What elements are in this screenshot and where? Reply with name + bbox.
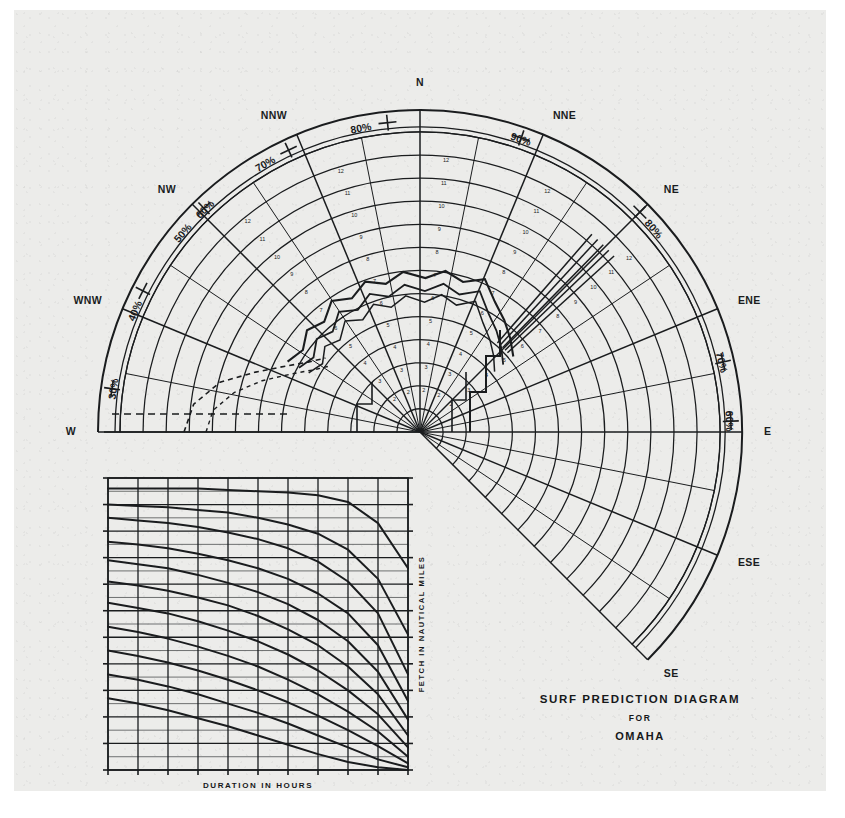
percent-label-p60e: 60% [723,410,736,432]
radial-tick-value: 2 [422,387,425,393]
radial-tick-value: 9 [574,299,577,305]
svg-text:70%: 70% [253,153,278,174]
ne-hatch-line [500,239,598,345]
radial-tick-value: 11 [608,269,614,275]
svg-text:60%: 60% [723,410,736,432]
radial-tick-value: 2 [407,389,410,395]
radial-line [192,204,420,432]
radial-tick-value: 8 [305,289,308,295]
radial-tick-value: 7 [538,328,541,334]
radial-tick-value: 12 [245,218,251,224]
radial-tick-value: 3 [400,367,403,373]
direction-label-wnw: WNW [73,294,102,306]
radial-tick-value: 6 [521,343,524,349]
direction-label-nnw: NNW [261,109,287,121]
surf-contour-dashed [206,366,329,432]
inset-x-axis-label: DURATION IN HOURS [203,781,313,790]
percent-label-p30: 30% [106,377,121,400]
radial-tick-value: 3 [378,378,381,384]
direction-label-ene: ENE [738,294,761,306]
diagram-page: 2345678910111223456789101112234567891011… [0,0,845,818]
radial-tick-value: 4 [393,344,396,350]
title-line-1: SURF PREDICTION DIAGRAM [540,693,740,705]
radial-tick-value: 4 [427,341,430,347]
radial-tick-values: 2345678910111223456789101112234567891011… [245,157,633,407]
direction-label-se: SE [664,667,679,679]
radial-tick-value: 11 [345,190,351,196]
radial-tick-value: 10 [274,254,280,260]
percent-label-p80: 80% [349,120,373,136]
radial-tick-value: 8 [556,313,559,319]
radial-tick-value: 11 [533,208,539,214]
radial-tick-value: 10 [522,229,528,235]
radial-tick-value: 7 [320,307,323,313]
radial-tick-value: 2 [437,392,440,398]
radial-tick-value: 4 [459,351,462,357]
fetch-duration-inset-chart: DURATION IN HOURS FETCH IN NAUTICAL MILE… [103,478,426,790]
radial-tick-value: 11 [441,180,447,186]
radial-tick-value: 5 [386,322,389,328]
ne-hatch-line [505,250,609,350]
radial-tick-value: 9 [513,249,516,255]
radial-tick-value: 5 [349,343,352,349]
radial-tick-value: 12 [338,168,344,174]
radial-tick-value: 10 [438,203,444,209]
direction-label-nne: NNE [553,109,576,121]
radial-tick-value: 9 [290,271,293,277]
radial-tick-value: 11 [259,236,265,242]
percent-label-p70e: 70% [714,351,731,375]
band-tick-marks [103,114,739,431]
diagram-title-block: SURF PREDICTION DIAGRAM FOR OMAHA [540,693,740,742]
radial-tick-value: 9 [359,234,362,240]
radial-tick-value: 3 [448,371,451,377]
inset-y-axis-label: FETCH IN NAUTICAL MILES [417,556,426,693]
percent-label-p90: 90% [509,130,533,148]
surf-contour-dashed [184,358,325,432]
radial-tick-value: 8 [502,269,505,275]
direction-label-ne: NE [664,183,679,195]
radial-tick-value: 12 [443,157,449,163]
radial-tick-value: 6 [481,310,484,316]
radial-tick-value: 10 [590,284,596,290]
radial-tick-value: 8 [366,256,369,262]
ne-hatch-line [503,245,604,348]
radial-tick-value: 4 [364,360,367,366]
svg-text:80%: 80% [349,120,373,136]
radial-line [420,432,648,660]
percent-label-p70: 70% [253,153,278,174]
radial-tick-value: 8 [436,249,439,255]
radial-tick-value: 3 [425,364,428,370]
title-line-3: OMAHA [615,730,665,742]
svg-text:30%: 30% [106,377,121,400]
surf-prediction-diagram: 2345678910111223456789101112234567891011… [0,0,845,818]
direction-label-w: W [66,425,76,437]
direction-label-e: E [764,425,771,437]
svg-text:90%: 90% [509,130,533,148]
radial-tick-value: 9 [438,226,441,232]
radial-tick-value: 12 [626,255,632,261]
radial-tick-value: 2 [393,396,396,402]
direction-label-nw: NW [158,183,176,195]
radial-line [420,204,648,432]
title-line-2: FOR [629,713,652,723]
direction-label-n: N [416,76,424,88]
radial-tick-value: 5 [470,330,473,336]
svg-text:70%: 70% [714,351,731,375]
radial-tick-value: 10 [351,212,357,218]
direction-label-ese: ESE [738,556,760,568]
radial-tick-value: 5 [429,318,432,324]
radial-tick-value: 12 [544,188,550,194]
